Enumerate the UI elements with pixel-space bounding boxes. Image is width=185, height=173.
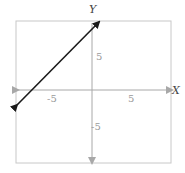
plotted-line <box>17 22 99 105</box>
x-tick-neg5: -5 <box>47 93 57 104</box>
y-tick-neg5: -5 <box>91 121 101 132</box>
x-axis-label: X <box>171 84 181 97</box>
y-axis-label: Y <box>89 3 98 16</box>
plot-frame <box>16 21 171 163</box>
x-tick-5: 5 <box>128 93 134 104</box>
y-tick-5: 5 <box>96 51 102 62</box>
coordinate-plane: X Y -5 5 5 -5 <box>0 0 185 173</box>
